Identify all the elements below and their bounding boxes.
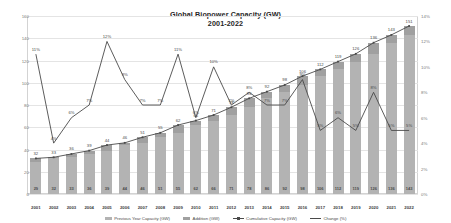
y-axis-tick-label: 140	[5, 36, 29, 41]
cumulative-value-label: 32	[34, 151, 39, 156]
bar-segment-addition	[386, 35, 397, 43]
bar-value-label: 86	[265, 186, 269, 191]
y-axis-tick-label: 0	[5, 192, 29, 197]
x-axis-tick-label: 2022	[404, 205, 414, 210]
x-axis-tick-label: 2005	[102, 205, 112, 210]
bar-value-label: 106	[317, 186, 324, 191]
legend-line-icon	[310, 218, 321, 219]
x-axis-tick-label: 2017	[315, 205, 325, 210]
bar-segment-addition	[279, 85, 290, 92]
y-axis-tick-label: 80	[5, 103, 29, 108]
bar-column[interactable]: 36	[84, 151, 95, 194]
legend-label: Change (%)	[323, 216, 346, 221]
x-axis-tick-label: 2006	[120, 205, 130, 210]
bar-column[interactable]: 112	[333, 62, 344, 194]
cumulative-value-label: 71	[211, 108, 216, 113]
bar-segment-previous-capacity	[244, 107, 255, 194]
bar-segment-addition	[173, 125, 184, 133]
cumulative-value-label: 126	[352, 46, 359, 51]
legend-label: Cumulative Capacity (GW)	[246, 216, 297, 221]
bar-segment-addition	[155, 133, 166, 137]
legend-marker-icon	[237, 217, 240, 220]
bar-column[interactable]: 86	[261, 92, 272, 194]
y-axis-tick-label: 120	[5, 58, 29, 63]
y-axis-secondary-tick-label: 8%	[421, 90, 447, 95]
y-axis-secondary-tick-label: 6%	[421, 115, 447, 120]
legend-item[interactable]: Cumulative Capacity (GW)	[233, 216, 297, 221]
bar-column[interactable]: 78	[244, 98, 255, 194]
x-axis-tick-label: 2016	[298, 205, 308, 210]
bar-segment-previous-capacity	[190, 125, 201, 194]
bar-column[interactable]: 39	[101, 145, 112, 194]
bar-column[interactable]: 32	[48, 157, 59, 194]
bar-value-label: 29	[34, 186, 38, 191]
chart-legend: Previous Year Capacity (GW)Addition (GW)…	[0, 216, 451, 221]
x-axis-tick-label: 2011	[209, 205, 218, 210]
change-percent-label: 6%	[335, 110, 341, 115]
cumulative-value-label: 92	[265, 84, 270, 89]
cumulative-value-label: 112	[317, 62, 324, 67]
bar-segment-previous-capacity	[368, 54, 379, 194]
bar-value-label: 119	[353, 186, 359, 191]
bar-segment-addition	[226, 107, 237, 115]
bar-segment-addition	[368, 43, 379, 54]
bar-column[interactable]: 51	[155, 133, 166, 194]
legend-swatch-icon	[105, 217, 112, 220]
x-axis-tick-label: 2013	[244, 205, 254, 210]
bar-column[interactable]: 55	[173, 125, 184, 194]
bar-column[interactable]: 33	[66, 154, 77, 194]
change-percent-label: 5%	[406, 123, 412, 128]
bar-value-label: 92	[282, 186, 286, 191]
bar-segment-addition	[190, 121, 201, 125]
bar-value-label: 71	[229, 186, 233, 191]
bar-value-label: 78	[247, 186, 251, 191]
bar-column[interactable]: 71	[226, 107, 237, 194]
cumulative-value-label: 51	[140, 130, 145, 135]
bar-column[interactable]: 62	[190, 121, 201, 194]
legend-item[interactable]: Previous Year Capacity (GW)	[105, 216, 170, 221]
y-axis-tick-label: 160	[5, 14, 29, 19]
bar-value-label: 98	[300, 186, 304, 191]
bar-column[interactable]: 29	[30, 158, 41, 194]
cumulative-value-label: 151	[406, 19, 413, 24]
bar-column[interactable]: 46	[137, 137, 148, 194]
change-percent-label: 5%	[388, 123, 394, 128]
gridline	[27, 194, 418, 195]
bar-segment-previous-capacity	[279, 92, 290, 194]
change-percent-label: 7%	[86, 98, 92, 103]
bar-column[interactable]: 136	[386, 35, 397, 194]
bar-column[interactable]: 106	[315, 69, 326, 194]
cumulative-value-label: 46	[122, 135, 127, 140]
y-axis-tick-label: 20	[5, 169, 29, 174]
legend-item[interactable]: Addition (GW)	[183, 216, 219, 221]
y-axis-secondary-tick-label: 14%	[421, 14, 447, 19]
chart-container: Global Biopower Capacity (GW) 2001-2022 …	[0, 0, 451, 223]
bar-value-label: 33	[69, 186, 73, 191]
bar-segment-addition	[30, 158, 41, 161]
legend-label: Previous Year Capacity (GW)	[114, 216, 170, 221]
bar-segment-addition	[208, 115, 219, 121]
x-axis-tick-label: 2021	[387, 205, 397, 210]
cumulative-value-label: 143	[388, 27, 395, 32]
bar-value-label: 66	[211, 186, 215, 191]
bar-segment-addition	[66, 154, 77, 157]
change-percent-label: 6%	[68, 110, 74, 115]
bar-column[interactable]: 126	[368, 43, 379, 194]
bar-value-label: 126	[370, 186, 377, 191]
bar-segment-previous-capacity	[333, 69, 344, 194]
y-axis-secondary-tick-label: 4%	[421, 141, 447, 146]
bar-segment-addition	[101, 145, 112, 151]
cumulative-value-label: 136	[370, 35, 377, 40]
y-axis-tick-label: 60	[5, 125, 29, 130]
bar-column[interactable]: 66	[208, 115, 219, 194]
x-axis-tick-label: 2012	[227, 205, 237, 210]
legend-item[interactable]: Change (%)	[310, 216, 346, 221]
bar-segment-previous-capacity	[386, 43, 397, 194]
bar-column[interactable]: 143	[404, 26, 415, 194]
bar-segment-previous-capacity	[297, 85, 308, 194]
x-axis-tick-label: 2004	[84, 205, 94, 210]
bar-column[interactable]: 98	[297, 76, 308, 194]
change-percent-label: 7%	[139, 98, 145, 103]
bar-column[interactable]: 44	[119, 143, 130, 194]
bar-value-label: 46	[140, 186, 144, 191]
